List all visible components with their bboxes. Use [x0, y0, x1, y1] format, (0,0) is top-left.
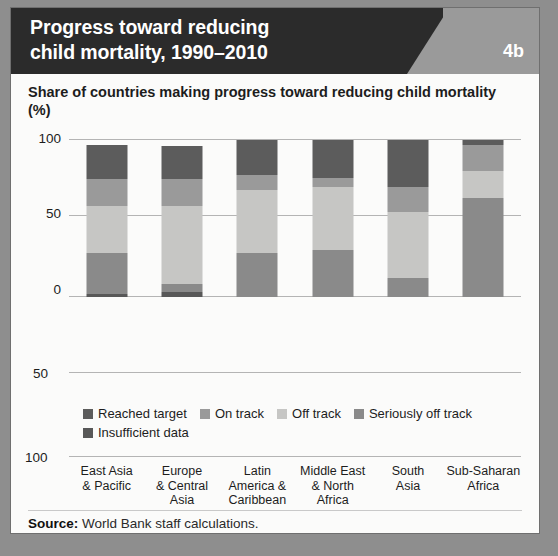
- legend-item[interactable]: On track: [200, 406, 264, 421]
- figure-card: Progress toward reducing child mortality…: [11, 8, 539, 533]
- bar-group: [69, 139, 521, 297]
- stacked-bar[interactable]: [86, 145, 127, 297]
- bar-segment[interactable]: [86, 294, 127, 297]
- legend-swatch-icon: [83, 428, 93, 438]
- plot-area: [69, 139, 521, 297]
- legend-label: Seriously off track: [369, 406, 472, 421]
- legend-swatch-icon: [354, 409, 364, 419]
- x-axis-labels: East Asia & PacificEurope & Central Asia…: [69, 464, 521, 508]
- bar-segment[interactable]: [86, 206, 127, 253]
- legend-swatch-icon: [200, 409, 210, 419]
- legend-item[interactable]: Seriously off track: [354, 406, 472, 421]
- legend-swatch-icon: [277, 409, 287, 419]
- stacked-bar[interactable]: [387, 140, 428, 297]
- legend-item[interactable]: Reached target: [83, 406, 187, 421]
- stacked-bar[interactable]: [161, 146, 202, 297]
- bar-slot: [295, 139, 370, 297]
- bar-segment[interactable]: [161, 292, 202, 297]
- bar-segment[interactable]: [86, 253, 127, 294]
- bar-slot: [220, 139, 295, 297]
- bar-segment[interactable]: [387, 278, 428, 297]
- source-text: World Bank staff calculations.: [82, 516, 259, 531]
- legend-row: Reached targetOn trackOff trackSeriously…: [83, 406, 513, 421]
- bar-slot: [144, 139, 219, 297]
- chart-subtitle: Share of countries making progress towar…: [28, 84, 528, 101]
- y-axis-unit-label: (%): [28, 102, 51, 118]
- legend-row: Insufficient data: [83, 425, 513, 440]
- bar-segment[interactable]: [86, 179, 127, 206]
- bar-slot: [69, 139, 144, 297]
- bar-segment[interactable]: [312, 250, 353, 297]
- x-axis-category-label: Sub-Saharan Africa: [446, 464, 521, 508]
- figure-body: Share of countries making progress towar…: [11, 74, 539, 533]
- x-axis-category-label: Middle East & North Africa: [295, 464, 370, 508]
- source-separator: [28, 510, 522, 511]
- legend-label: Off track: [292, 406, 341, 421]
- legend-label: Reached target: [98, 406, 187, 421]
- lower-axis-label-50: 50: [33, 366, 48, 381]
- source-note: Source: World Bank staff calculations.: [28, 516, 259, 531]
- bar-segment[interactable]: [237, 140, 278, 175]
- source-label: Source:: [28, 516, 78, 531]
- bar-segment[interactable]: [237, 253, 278, 297]
- lower-rule-100: [69, 456, 521, 457]
- bar-segment[interactable]: [161, 284, 202, 292]
- bar-segment[interactable]: [86, 145, 127, 180]
- legend-label: Insufficient data: [98, 425, 189, 440]
- bar-segment[interactable]: [161, 206, 202, 285]
- x-axis-category-label: South Asia: [370, 464, 445, 508]
- legend-swatch-icon: [83, 409, 93, 419]
- x-axis-category-label: East Asia & Pacific: [69, 464, 144, 508]
- legend-item[interactable]: Insufficient data: [83, 425, 189, 440]
- stacked-bar[interactable]: [312, 140, 353, 297]
- figure-title: Progress toward reducing child mortality…: [30, 15, 420, 65]
- lower-rule-50: [69, 372, 521, 373]
- legend-item[interactable]: Off track: [277, 406, 341, 421]
- bar-segment[interactable]: [237, 190, 278, 253]
- bar-segment[interactable]: [463, 145, 504, 172]
- bar-segment[interactable]: [387, 140, 428, 187]
- stacked-bar[interactable]: [463, 140, 504, 297]
- x-axis-category-label: Europe & Central Asia: [144, 464, 219, 508]
- y-tick-label-50: 50: [25, 206, 61, 221]
- figure-header: Progress toward reducing child mortality…: [11, 8, 539, 74]
- y-tick-label-0: 0: [25, 282, 61, 297]
- stacked-bar[interactable]: [237, 140, 278, 297]
- x-axis-category-label: Latin America & Caribbean: [220, 464, 295, 508]
- bar-segment[interactable]: [161, 146, 202, 179]
- bar-segment[interactable]: [312, 178, 353, 187]
- bar-segment[interactable]: [161, 179, 202, 206]
- lower-axis-label-100: 100: [25, 450, 48, 465]
- y-tick-label-100: 100: [25, 131, 61, 146]
- bar-segment[interactable]: [387, 212, 428, 278]
- bar-segment[interactable]: [463, 198, 504, 297]
- bar-segment[interactable]: [237, 175, 278, 191]
- bar-slot: [446, 139, 521, 297]
- bar-segment[interactable]: [387, 187, 428, 212]
- figure-number-badge: 4b: [503, 41, 524, 62]
- legend-label: On track: [215, 406, 264, 421]
- bar-segment[interactable]: [312, 187, 353, 250]
- bar-slot: [370, 139, 445, 297]
- chart-legend: Reached targetOn trackOff trackSeriously…: [83, 406, 513, 444]
- bar-segment[interactable]: [463, 171, 504, 198]
- bar-segment[interactable]: [312, 140, 353, 178]
- page-background: Progress toward reducing child mortality…: [0, 0, 558, 556]
